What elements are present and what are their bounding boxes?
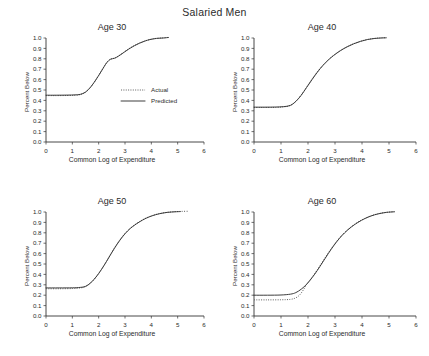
y-tick-label: 0.3	[241, 281, 250, 288]
series-actual	[254, 212, 394, 300]
y-tick-label: 0.0	[241, 138, 250, 145]
y-tick-label: 0.7	[241, 239, 250, 246]
y-tick-label: 1.0	[241, 34, 250, 41]
plot-area: 0.00.10.20.30.40.50.60.70.80.91.00123456…	[14, 22, 210, 174]
x-tick-label: 2	[97, 147, 101, 154]
x-axis-label: Common Log of Expenditure	[14, 330, 210, 337]
x-tick-label: 3	[333, 147, 337, 154]
axis-spines	[46, 212, 204, 316]
axis-spines	[254, 38, 416, 142]
y-tick-label: 0.9	[241, 219, 250, 226]
x-tick-label: 3	[123, 321, 127, 328]
y-tick-label: 0.4	[33, 271, 42, 278]
plot-area: 0.00.10.20.30.40.50.60.70.80.91.00123456	[222, 22, 422, 174]
y-tick-label: 0.3	[33, 107, 42, 114]
y-tick-label: 0.1	[241, 302, 250, 309]
y-tick-label: 0.0	[241, 312, 250, 319]
y-tick-label: 0.7	[33, 65, 42, 72]
x-tick-label: 4	[150, 321, 154, 328]
y-axis-label: Percent Below	[231, 72, 238, 112]
x-tick-label: 2	[306, 321, 310, 328]
y-tick-label: 0.5	[241, 260, 250, 267]
x-tick-label: 1	[279, 321, 283, 328]
y-axis-label: Percent Below	[23, 246, 30, 286]
x-tick-label: 1	[71, 321, 75, 328]
y-tick-label: 0.6	[33, 250, 42, 257]
x-tick-label: 0	[252, 147, 256, 154]
y-tick-label: 0.2	[33, 291, 42, 298]
y-tick-label: 0.1	[33, 128, 42, 135]
x-tick-label: 5	[176, 147, 180, 154]
x-tick-label: 1	[71, 147, 75, 154]
y-axis-label: Percent Below	[23, 72, 30, 112]
y-tick-label: 0.6	[241, 76, 250, 83]
plot-area: 0.00.10.20.30.40.50.60.70.80.91.00123456	[14, 196, 210, 348]
x-tick-label: 4	[360, 321, 364, 328]
y-tick-label: 0.2	[241, 291, 250, 298]
x-tick-label: 3	[123, 147, 127, 154]
series-actual	[254, 38, 386, 108]
series-predicted	[254, 212, 394, 295]
figure-title: Salaried Men	[0, 6, 429, 18]
y-tick-label: 0.3	[241, 107, 250, 114]
chart-panel-age-50: Age 500.00.10.20.30.40.50.60.70.80.91.00…	[14, 196, 210, 348]
legend-label-actual: Actual	[151, 86, 168, 93]
y-tick-label: 0.5	[241, 86, 250, 93]
y-tick-label: 0.5	[33, 260, 42, 267]
y-tick-label: 0.0	[33, 312, 42, 319]
x-tick-label: 1	[279, 147, 283, 154]
y-tick-label: 1.0	[241, 208, 250, 215]
x-tick-label: 3	[333, 321, 337, 328]
y-tick-label: 0.7	[241, 65, 250, 72]
y-tick-label: 0.8	[33, 229, 42, 236]
legend-label-predicted: Predicted	[151, 97, 178, 104]
x-tick-label: 2	[97, 321, 101, 328]
y-tick-label: 0.6	[33, 76, 42, 83]
y-axis-label: Percent Below	[231, 246, 238, 286]
x-tick-label: 6	[202, 147, 206, 154]
x-tick-label: 0	[44, 321, 48, 328]
x-axis-label: Common Log of Expenditure	[14, 156, 210, 163]
plot-area: 0.00.10.20.30.40.50.60.70.80.91.00123456	[222, 196, 422, 348]
x-tick-label: 4	[360, 147, 364, 154]
x-tick-label: 6	[202, 321, 206, 328]
y-tick-label: 0.7	[33, 239, 42, 246]
x-axis-label: Common Log of Expenditure	[222, 156, 422, 163]
x-tick-label: 2	[306, 147, 310, 154]
y-tick-label: 0.4	[241, 97, 250, 104]
x-tick-label: 0	[252, 321, 256, 328]
chart-legend: ActualPredicted	[121, 86, 178, 104]
series-predicted	[254, 38, 386, 107]
chart-panel-age-60: Age 600.00.10.20.30.40.50.60.70.80.91.00…	[222, 196, 422, 348]
y-tick-label: 0.8	[241, 229, 250, 236]
y-tick-label: 0.9	[241, 45, 250, 52]
y-tick-label: 0.1	[241, 128, 250, 135]
x-tick-label: 5	[387, 321, 391, 328]
x-tick-label: 6	[414, 147, 418, 154]
y-tick-label: 0.2	[241, 117, 250, 124]
chart-panel-age-40: Age 400.00.10.20.30.40.50.60.70.80.91.00…	[222, 22, 422, 174]
y-tick-label: 0.9	[33, 219, 42, 226]
y-tick-label: 0.8	[241, 55, 250, 62]
y-tick-label: 0.4	[241, 271, 250, 278]
y-tick-label: 1.0	[33, 34, 42, 41]
x-tick-label: 5	[176, 321, 180, 328]
y-tick-label: 0.0	[33, 138, 42, 145]
x-tick-label: 0	[44, 147, 48, 154]
axis-spines	[46, 38, 204, 142]
chart-panel-age-30: Age 300.00.10.20.30.40.50.60.70.80.91.00…	[14, 22, 210, 174]
y-tick-label: 0.6	[241, 250, 250, 257]
x-tick-label: 5	[387, 147, 391, 154]
y-tick-label: 0.5	[33, 86, 42, 93]
axis-spines	[254, 212, 416, 316]
x-tick-label: 6	[414, 321, 418, 328]
y-tick-label: 0.1	[33, 302, 42, 309]
y-tick-label: 0.8	[33, 55, 42, 62]
series-predicted	[46, 212, 180, 288]
y-tick-label: 0.2	[33, 117, 42, 124]
y-tick-label: 0.9	[33, 45, 42, 52]
series-actual	[46, 211, 188, 288]
x-tick-label: 4	[150, 147, 154, 154]
figure-root: Salaried Men Age 300.00.10.20.30.40.50.6…	[0, 0, 429, 356]
y-tick-label: 1.0	[33, 208, 42, 215]
